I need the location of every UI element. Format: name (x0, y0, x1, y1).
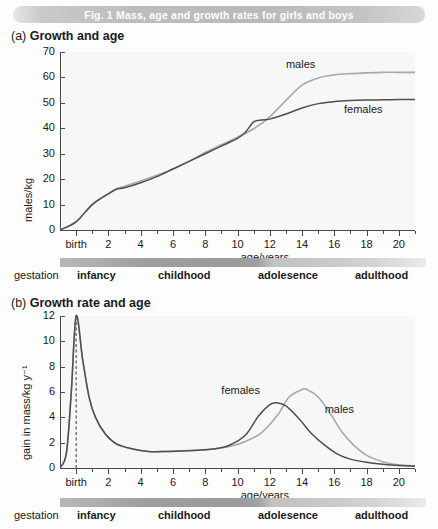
life-stage-gradient-a (60, 258, 426, 267)
x-tick-label-a-8: 16 (317, 238, 351, 250)
series-label-females-b: females (221, 384, 260, 396)
x-tick-label-a-0: birth (59, 238, 93, 250)
stage-label-adulthood: adulthood (355, 509, 408, 521)
x-tick-label-b-10: 20 (382, 476, 416, 488)
x-tick-label-a-3: 6 (156, 238, 190, 250)
x-tick-label-b-1: 2 (91, 476, 125, 488)
chart-growth-rate-and-age: 024681012birth2468101214161820gain in ma… (0, 312, 438, 488)
x-tick-label-a-6: 12 (253, 238, 287, 250)
stage-label-infancy: infancy (77, 269, 116, 281)
life-stage-bar-b: gestationinfancychildhoodadolesenceadult… (0, 498, 438, 529)
x-tick-label-a-2: 4 (124, 238, 158, 250)
x-tick-label-b-7: 14 (285, 476, 319, 488)
curves-b (0, 312, 438, 472)
panel-b-title: Growth rate and age (30, 296, 151, 310)
x-tick-label-b-9: 18 (350, 476, 384, 488)
stage-label-childhood: childhood (158, 269, 211, 281)
panel-a-title: Growth and age (30, 29, 124, 43)
x-tick-label-b-8: 16 (317, 476, 351, 488)
x-tick-label-b-3: 6 (156, 476, 190, 488)
panel-b-prefix: (b) (11, 296, 26, 310)
life-stage-bar-a: gestationinfancychildhoodadolesenceadult… (0, 258, 438, 292)
series-label-males-a: males (286, 58, 315, 70)
life-stage-labels-a: gestationinfancychildhoodadolesenceadult… (0, 269, 438, 285)
series-label-females-a: females (344, 103, 383, 115)
x-tick-label-b-2: 4 (124, 476, 158, 488)
curve-males-a (60, 72, 415, 230)
stage-label-adolesence: adolesence (258, 509, 318, 521)
x-tick-label-a-4: 8 (188, 238, 222, 250)
panel-a-heading: (a) Growth and age (11, 29, 124, 43)
series-label-males-b: males (325, 403, 354, 415)
life-stage-gradient-b (60, 498, 426, 507)
stage-label-infancy: infancy (77, 509, 116, 521)
figure-title-bar: Fig. 1 Mass, age and growth rates for gi… (13, 6, 425, 23)
panel-b-heading: (b) Growth rate and age (11, 296, 151, 310)
stage-label-gestation: gestation (14, 509, 59, 521)
x-tick-label-a-9: 18 (350, 238, 384, 250)
x-tick-label-b-0: birth (59, 476, 93, 488)
stage-label-adulthood: adulthood (355, 269, 408, 281)
stage-label-gestation: gestation (14, 269, 59, 281)
x-tick-label-a-7: 14 (285, 238, 319, 250)
x-tick-label-b-5: 10 (221, 476, 255, 488)
x-tick-label-a-5: 10 (221, 238, 255, 250)
x-tick-label-a-10: 20 (382, 238, 416, 250)
chart-growth-and-age: 010203040506070birth2468101214161820male… (0, 46, 438, 246)
stage-label-adolesence: adolesence (258, 269, 318, 281)
curves-a (0, 46, 438, 234)
curve-females-a (60, 100, 415, 230)
x-tick-label-b-4: 8 (188, 476, 222, 488)
x-tick-label-b-6: 12 (253, 476, 287, 488)
stage-label-childhood: childhood (158, 509, 211, 521)
panel-a-prefix: (a) (11, 29, 26, 43)
x-tick-label-a-1: 2 (91, 238, 125, 250)
life-stage-labels-b: gestationinfancychildhoodadolesenceadult… (0, 509, 438, 525)
figure-page: Fig. 1 Mass, age and growth rates for gi… (0, 0, 438, 529)
